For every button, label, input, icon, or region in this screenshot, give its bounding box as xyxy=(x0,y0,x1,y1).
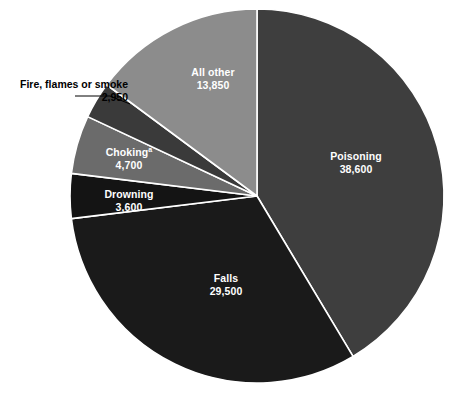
pie-chart-figure: Poisoning 38,600 Falls 29,500 Drowning 3… xyxy=(0,0,449,395)
slice-label-fire: Fire, flames or smoke 2,950 xyxy=(10,78,128,104)
pie-chart-svg xyxy=(0,0,449,395)
pie-slices-group xyxy=(70,9,444,383)
slice-label-fire-name: Fire, flames or smoke xyxy=(10,78,128,91)
slice-label-fire-value: 2,950 xyxy=(10,91,128,104)
